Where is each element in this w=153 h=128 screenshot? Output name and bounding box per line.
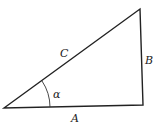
label-side-b: B: [144, 54, 153, 67]
label-angle-alpha: α: [53, 88, 61, 101]
right-triangle: [4, 9, 143, 108]
angle-arc: [42, 81, 50, 107]
triangle-diagram: C B α A: [0, 0, 153, 128]
label-hypotenuse-c: C: [60, 47, 69, 60]
label-side-a: A: [70, 112, 79, 125]
